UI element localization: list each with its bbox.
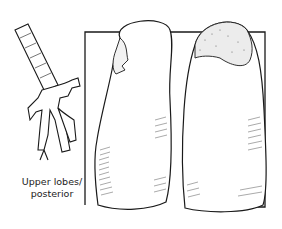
left-lung bbox=[95, 21, 172, 210]
trachea-bronchial-tree bbox=[15, 24, 80, 160]
lung-illustration: Upper lobes/ posterior bbox=[0, 0, 282, 229]
caption-line-2: posterior bbox=[14, 188, 90, 200]
figure-caption: Upper lobes/ posterior bbox=[14, 176, 90, 200]
caption-line-1: Upper lobes/ bbox=[14, 176, 90, 188]
right-lung bbox=[183, 22, 267, 212]
